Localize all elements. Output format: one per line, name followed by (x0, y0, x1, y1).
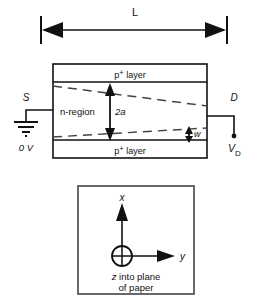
length-label: L (132, 6, 138, 18)
channel-width-label: 2a (114, 106, 126, 117)
x-axis-label: x (119, 192, 126, 203)
figure-canvas: L p+ layer p+ layer n-region (0, 0, 272, 304)
device-cross-section-figure: L p+ layer p+ layer n-region (0, 0, 272, 304)
drain-terminal-dot-icon (232, 134, 237, 139)
source-label: S (23, 92, 30, 103)
drain-label: D (230, 92, 237, 103)
top-p-layer-label: p+ layer (114, 68, 145, 81)
bottom-p-layer-label: p+ layer (114, 144, 145, 157)
y-axis-label: y (179, 251, 186, 262)
z-note-line-1: z into plane (111, 271, 161, 282)
source-voltage-label: 0 V (19, 142, 35, 153)
n-region-label: n-region (60, 106, 95, 117)
z-into-page-circle-cross-icon (112, 246, 132, 266)
depletion-width-label: w (194, 129, 201, 139)
z-note-line-2: of paper (119, 282, 154, 293)
